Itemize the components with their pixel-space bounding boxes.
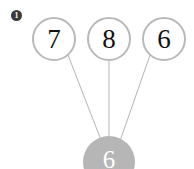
addend-circle-2[interactable]: 8 [87,17,131,61]
step-number-badge: 1 [11,10,22,21]
connector-line-3 [120,55,150,141]
connector-line-1 [68,55,101,140]
addend-circle-3[interactable]: 6 [142,17,186,61]
addend-circle-1[interactable]: 7 [32,17,76,61]
number-bond-diagram: 1 7 8 6 6 [0,0,194,169]
